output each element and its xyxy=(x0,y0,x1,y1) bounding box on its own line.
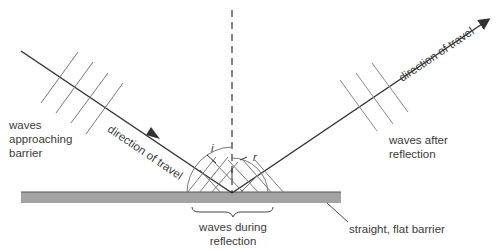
label-angle-r: r xyxy=(253,150,257,164)
label-line: waves during xyxy=(196,220,270,234)
barrier-leader xyxy=(327,203,348,222)
label-angle-i: i xyxy=(211,141,214,155)
label-barrier: straight, flat barrier xyxy=(349,222,445,236)
label-waves-after: waves after reflection xyxy=(389,133,448,161)
barrier xyxy=(21,192,341,203)
brace xyxy=(192,207,273,217)
label-waves-during: waves during reflection xyxy=(196,220,270,248)
label-line: reflection xyxy=(196,234,270,248)
label-waves-approaching: waves approaching barrier xyxy=(9,118,72,160)
label-line: approaching xyxy=(9,132,72,146)
reflection-diagram xyxy=(0,0,497,251)
label-line: waves xyxy=(9,118,72,132)
label-line: barrier xyxy=(9,146,72,160)
label-line: reflection xyxy=(389,147,448,161)
waves-during-reflection xyxy=(187,147,284,193)
label-line: waves after xyxy=(389,133,448,147)
